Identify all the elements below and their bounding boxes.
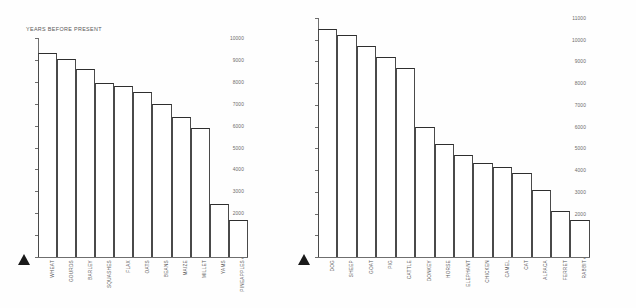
bar-category-label: CATTLE [407,260,412,279]
bar-column: OATS [133,38,152,257]
bar[interactable] [57,59,76,257]
x-axis-crops [38,257,248,258]
bar-category-label: FERRET [563,260,568,280]
bar-category-label: BEANS [164,260,169,277]
bar-column: ELEPHANT [454,18,473,257]
bar[interactable] [512,173,531,257]
bar-category-label: CHICKEN [485,260,490,283]
bar[interactable] [376,57,395,257]
bar[interactable] [152,104,171,257]
bar-column: PINEAPPLES [229,38,248,257]
bar-category-label: DONKEY [427,260,432,281]
bar-column: GOAT [357,18,376,257]
bar-column: BARLEY [76,38,95,257]
y-axis-tick [315,257,318,258]
bar[interactable] [38,53,57,257]
bar-column: MILLET [191,38,210,257]
bar[interactable] [396,68,415,257]
bar-category-label: MILLET [202,260,207,278]
bar-category-label: GOAT [369,260,374,274]
triangle-up-icon [18,254,30,265]
bar-column: MAIZE [172,38,191,257]
bar[interactable] [473,163,492,258]
chart-panel-crops: YEARS BEFORE PRESENT 01,0002000300040005… [0,0,300,308]
bar[interactable] [210,204,229,257]
bar-column: SQUASHES [95,38,114,257]
plot-area-animals: 01,0002000300040005000600070008000900010… [318,18,590,257]
bar[interactable] [191,128,210,257]
bar-category-label: MAIZE [183,260,188,276]
bar-column: YAMS [210,38,229,257]
bar-column: CATTLE [396,18,415,257]
bar-column: BEANS [152,38,171,257]
bar-column: CAT [512,18,531,257]
bar-category-label: PINEAPPLES [240,260,245,292]
bar-column: CAMEL [493,18,512,257]
bar-group-animals: DOGSHEEPGOATPIGCATTLEDONKEYHORSEELEPHANT… [318,18,590,257]
bar[interactable] [76,69,95,257]
bar-category-label: WHEAT [50,260,55,278]
bar[interactable] [415,127,434,257]
bar-column: WHEAT [38,38,57,257]
bar-column: ALPACA [532,18,551,257]
bar-category-label: YAMS [221,260,226,274]
bar-column: HORSE [435,18,454,257]
bar-category-label: CAT [524,260,529,270]
triangle-up-icon [298,254,310,265]
bar-column: PIG [376,18,395,257]
bar-category-label: ALPACA [543,260,548,280]
bar-category-label: OATS [145,260,150,273]
bar-column: DONKEY [415,18,434,257]
bar[interactable] [551,211,570,257]
bar[interactable] [532,190,551,257]
bar-category-label: ELEPHANT [466,260,471,287]
plot-area-crops: 01,0002000300040005000600070008000900010… [38,38,248,257]
bar-column: RABBIT [570,18,589,257]
bar[interactable] [493,167,512,257]
bar[interactable] [318,29,337,257]
bar-column: GOURDS [57,38,76,257]
bar[interactable] [229,220,248,257]
bar[interactable] [570,220,589,257]
bar-column: FERRET [551,18,570,257]
bar-category-label: HORSE [446,260,451,278]
figure-canvas: YEARS BEFORE PRESENT 01,0002000300040005… [0,0,636,308]
bar[interactable] [357,46,376,257]
bar-category-label: SHEEP [349,260,354,277]
bar-category-label: PIG [388,260,393,269]
bar-category-label: FLAX [126,260,131,273]
bar[interactable] [133,92,152,257]
bar[interactable] [337,35,356,257]
chart-title-crops: YEARS BEFORE PRESENT [26,26,102,32]
bar[interactable] [95,83,114,257]
bar-category-label: RABBIT [582,260,587,278]
y-axis-tick [35,257,38,258]
bar-category-label: BARLEY [88,260,93,280]
bar[interactable] [435,144,454,257]
bar-column: SHEEP [337,18,356,257]
bar-column: FLAX [114,38,133,257]
bar-group-crops: WHEATGOURDSBARLEYSQUASHESFLAXOATSBEANSMA… [38,38,248,257]
bar[interactable] [114,86,133,257]
chart-panel-animals: 01,0002000300040005000600070008000900010… [278,0,636,308]
bar-category-label: GOURDS [69,260,74,282]
bar-column: CHICKEN [473,18,492,257]
bar-category-label: DOG [330,260,335,271]
x-axis-animals [318,257,590,258]
bar[interactable] [454,155,473,257]
bar-category-label: CAMEL [505,260,510,277]
bar-category-label: SQUASHES [107,260,112,288]
bar[interactable] [172,117,191,257]
bar-column: DOG [318,18,337,257]
